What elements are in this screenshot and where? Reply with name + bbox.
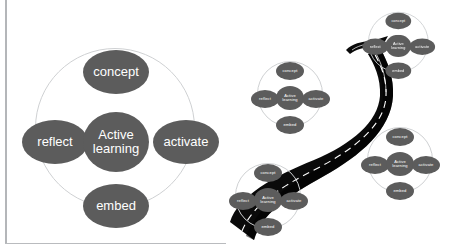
node-embed[interactable]: embed: [385, 62, 411, 79]
node-active-learning-label: Active learning: [392, 160, 407, 169]
node-concept-label: concept: [93, 65, 139, 79]
node-embed[interactable]: embed: [83, 184, 149, 228]
node-center-line1: Active: [98, 127, 133, 142]
node-center-line1: Active: [393, 41, 404, 46]
road-cluster-upper-left: concept reflect Active learning activate…: [244, 46, 336, 142]
road-cluster-top-right: concept reflect Active learning activate…: [356, 0, 441, 86]
node-active-learning[interactable]: Active learning: [254, 188, 282, 212]
node-active-learning-label: Active learning: [93, 128, 139, 155]
node-center-line2: learning: [392, 163, 407, 168]
node-embed-label: embed: [261, 225, 274, 229]
left-panel: concept reflect Active learning activate…: [7, 0, 226, 250]
node-active-learning[interactable]: Active learning: [386, 152, 414, 176]
node-active-learning-label: Active learning: [391, 42, 405, 50]
node-reflect[interactable]: reflect: [229, 192, 257, 210]
node-embed[interactable]: embed: [254, 218, 282, 236]
node-reflect[interactable]: reflect: [22, 120, 88, 164]
node-activate-label: activate: [287, 199, 302, 203]
active-learning-cycle: concept reflect Active learning activate…: [7, 8, 226, 242]
node-reflect-label: reflect: [37, 135, 72, 149]
node-activate-label: activate: [415, 45, 429, 49]
node-embed-label: embed: [283, 123, 296, 127]
node-concept-label: concept: [282, 69, 297, 73]
node-concept[interactable]: concept: [386, 128, 414, 146]
node-activate-label: activate: [419, 163, 434, 167]
node-center-line2: learning: [93, 141, 139, 156]
node-center-line2: learning: [282, 97, 297, 102]
node-active-learning[interactable]: Active learning: [276, 86, 304, 110]
node-activate[interactable]: activate: [302, 90, 330, 108]
node-concept-label: concept: [260, 171, 275, 175]
node-center-line1: Active: [262, 195, 274, 200]
node-active-learning[interactable]: Active learning: [385, 35, 411, 57]
node-activate[interactable]: activate: [153, 120, 219, 164]
node-activate[interactable]: activate: [280, 192, 308, 210]
node-embed[interactable]: embed: [386, 182, 414, 200]
road-cluster-bottom-left: concept reflect Active learning activate…: [222, 148, 314, 244]
node-activate-label: activate: [164, 135, 209, 149]
node-concept[interactable]: concept: [254, 164, 282, 182]
node-concept-label: concept: [391, 19, 405, 23]
node-embed-label: embed: [392, 69, 404, 73]
node-center-line1: Active: [394, 159, 406, 164]
node-reflect[interactable]: reflect: [362, 38, 388, 55]
node-reflect-label: reflect: [259, 97, 271, 101]
node-active-learning-label: Active learning: [260, 196, 275, 205]
node-concept[interactable]: concept: [385, 13, 411, 30]
node-embed-label: embed: [96, 199, 136, 213]
right-panel: concept reflect Active learning activate…: [228, 0, 456, 250]
node-reflect-label: reflect: [369, 163, 381, 167]
node-center-line2: learning: [391, 45, 405, 50]
figure-canvas: concept reflect Active learning activate…: [0, 0, 456, 250]
node-active-learning-label: Active learning: [282, 94, 297, 103]
node-reflect[interactable]: reflect: [251, 90, 279, 108]
node-activate-label: activate: [309, 97, 324, 101]
node-active-learning[interactable]: Active learning: [83, 112, 149, 172]
node-center-line1: Active: [284, 93, 296, 98]
node-concept[interactable]: concept: [276, 62, 304, 80]
node-activate[interactable]: activate: [412, 156, 440, 174]
node-embed[interactable]: embed: [276, 116, 304, 134]
road-cluster-middle-right: concept reflect Active learning activate…: [354, 112, 446, 208]
node-reflect[interactable]: reflect: [361, 156, 389, 174]
node-reflect-label: reflect: [370, 45, 381, 49]
node-center-line2: learning: [260, 199, 275, 204]
node-reflect-label: reflect: [237, 199, 249, 203]
node-concept[interactable]: concept: [83, 50, 149, 94]
node-concept-label: concept: [392, 135, 407, 139]
node-activate[interactable]: activate: [409, 38, 435, 55]
node-embed-label: embed: [393, 189, 406, 193]
